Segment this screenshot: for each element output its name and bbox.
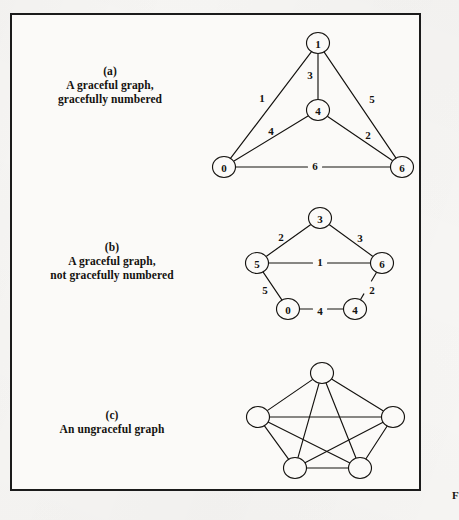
node-label: 6 [379,258,385,270]
graph-edge [266,225,310,256]
edge-label: 3 [307,69,313,81]
graph-node [311,363,334,384]
edge-label: 2 [369,284,375,296]
edge-label: 5 [369,93,375,105]
panel-c-graph [247,363,405,479]
edge-label: 4 [317,305,323,317]
edge-label: 6 [312,160,318,172]
graph-drawing-surface: 1354261406 23152435604 [0,0,459,520]
edge-label: 5 [262,284,268,296]
node-label: 4 [352,304,358,316]
node-label: 0 [285,304,291,316]
graph-edge [268,380,313,411]
figure-number-partial: F [452,489,459,501]
panel-b-graph: 23152435604 [246,208,394,320]
graph-edge [231,52,311,158]
graph-edge [366,426,387,458]
node-label: 5 [254,258,260,270]
graph-edge [332,379,383,411]
graph-node [349,458,372,479]
node-label: 6 [399,162,405,174]
graph-node [247,407,270,428]
figure-page: (a) A graceful graph, gracefully numbere… [0,0,459,520]
graph-edge [269,422,350,462]
edge-label: 2 [365,129,371,141]
graph-edge [326,383,356,457]
node-label: 1 [315,38,321,50]
edge-label: 1 [259,92,265,104]
node-label: 4 [315,105,321,117]
edge-label: 3 [357,232,363,244]
graph-edge [371,273,376,281]
graph-node [382,407,405,428]
node-label: 3 [317,213,323,225]
graph-node [284,458,307,479]
graph-edge [265,426,289,459]
graph-edge [329,225,372,256]
panel-a-graph: 1354261406 [213,33,414,178]
edge-label: 2 [278,231,284,243]
edge-label: 1 [317,256,323,268]
node-label: 0 [221,162,227,174]
graph-edge [324,52,395,157]
graph-edge [361,294,364,299]
edge-label: 4 [268,125,274,137]
